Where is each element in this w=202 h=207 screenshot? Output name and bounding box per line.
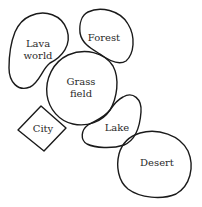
desert-label-line1: Desert: [140, 157, 174, 169]
grass-field-label-line1: Grass: [67, 76, 96, 88]
grass-field-label-line2: field: [67, 88, 96, 100]
desert-label: Desert: [140, 157, 174, 169]
lava-world-label-line2: world: [24, 50, 53, 62]
world-regions-diagram: Lava world Forest Grass field City Lake …: [0, 0, 202, 207]
lava-world-label-line1: Lava: [24, 38, 53, 50]
city-label: City: [33, 123, 54, 135]
grass-field-label: Grass field: [67, 76, 96, 100]
forest-label-line1: Forest: [88, 32, 120, 44]
lava-world-label: Lava world: [24, 38, 53, 62]
forest-label: Forest: [88, 32, 120, 44]
city-label-line1: City: [33, 123, 54, 135]
lake-label: Lake: [105, 122, 130, 134]
lake-label-line1: Lake: [105, 122, 130, 134]
